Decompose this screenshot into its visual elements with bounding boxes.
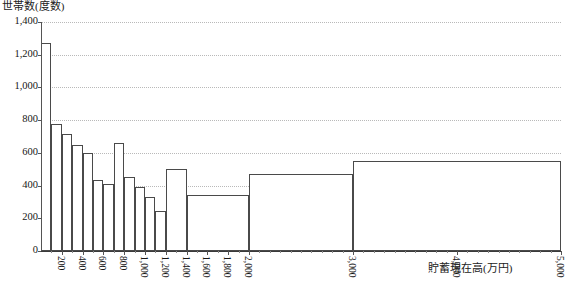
histogram-bar	[72, 145, 82, 251]
x-axis-minor-tick	[93, 251, 94, 253]
x-axis-minor-tick	[311, 251, 312, 253]
x-axis-minor-tick	[530, 251, 531, 253]
y-axis-tick-label: 800	[0, 113, 38, 124]
x-axis-minor-tick	[478, 251, 479, 253]
x-axis-minor-tick	[384, 251, 385, 253]
x-axis-tick-mark	[103, 251, 104, 255]
x-axis-tick-mark	[187, 251, 188, 255]
y-axis-tick-label: 1,000	[0, 80, 38, 91]
histogram-bar	[353, 161, 561, 251]
x-axis-tick-label: 5,000	[555, 256, 565, 277]
histogram-bar	[93, 180, 103, 251]
x-axis-minor-tick	[291, 251, 292, 253]
y-axis-tick-label: 1,400	[0, 15, 38, 26]
x-axis-minor-tick	[114, 251, 115, 253]
bars-group	[41, 22, 561, 251]
x-axis-minor-tick	[135, 251, 136, 253]
x-axis-tick-label: 3,000	[347, 256, 357, 277]
x-axis-minor-tick	[551, 251, 552, 253]
x-axis-tick-mark	[62, 251, 63, 255]
y-axis-tick-label: 1,200	[0, 48, 38, 59]
histogram-bar	[135, 187, 145, 251]
histogram-bar	[62, 134, 72, 251]
histogram-bar	[114, 143, 124, 251]
x-axis-tick-label: 800	[118, 256, 128, 270]
x-axis-minor-tick	[155, 251, 156, 253]
x-axis-minor-tick	[467, 251, 468, 253]
histogram-bar	[103, 184, 113, 251]
histogram-bar	[249, 174, 353, 251]
x-axis-minor-tick	[280, 251, 281, 253]
x-axis-title: 貯蓄現在高(万円)	[428, 259, 512, 275]
histogram-bar	[41, 43, 51, 251]
x-axis-tick-label: 1,800	[222, 256, 232, 277]
x-axis-tick-mark	[83, 251, 84, 255]
x-axis-minor-tick	[540, 251, 541, 253]
x-axis-tick-mark	[207, 251, 208, 255]
x-axis-minor-tick	[301, 251, 302, 253]
histogram-bar	[166, 169, 187, 251]
x-axis-minor-tick	[415, 251, 416, 253]
x-axis-minor-tick	[488, 251, 489, 253]
x-axis-minor-tick	[374, 251, 375, 253]
x-axis-minor-tick	[426, 251, 427, 253]
x-axis-tick-mark	[561, 251, 562, 255]
x-axis-minor-tick	[447, 251, 448, 253]
histogram-bar	[51, 124, 61, 251]
y-axis-tick-label: 0	[0, 244, 38, 255]
x-axis-minor-tick	[72, 251, 73, 253]
y-axis-tick-label: 400	[0, 179, 38, 190]
x-axis-minor-tick	[239, 251, 240, 253]
y-axis-tick-label: 600	[0, 146, 38, 157]
x-axis-tick-mark	[353, 251, 354, 255]
x-axis-minor-tick	[363, 251, 364, 253]
y-axis-tick-label: 200	[0, 211, 38, 222]
histogram-bar	[155, 211, 165, 251]
histogram-bar	[145, 197, 155, 251]
histogram-bar	[83, 153, 93, 251]
x-axis-tick-mark	[249, 251, 250, 255]
x-axis-minor-tick	[197, 251, 198, 253]
y-axis-title: 世帯数(度数)	[2, 0, 64, 13]
x-axis-tick-label: 1,000	[139, 256, 149, 277]
x-axis-minor-tick	[519, 251, 520, 253]
x-axis-minor-tick	[395, 251, 396, 253]
x-axis-tick-mark	[145, 251, 146, 255]
x-axis-tick-label: 600	[97, 256, 107, 270]
x-axis-minor-tick	[176, 251, 177, 253]
x-axis-tick-label: 2,000	[243, 256, 253, 277]
x-axis-tick-label: 1,600	[201, 256, 211, 277]
x-axis-minor-tick	[270, 251, 271, 253]
x-axis-minor-tick	[51, 251, 52, 253]
x-axis-tick-label: 1,200	[160, 256, 170, 277]
x-axis-minor-tick	[343, 251, 344, 253]
x-axis-tick-mark	[457, 251, 458, 255]
y-axis-line	[41, 22, 42, 251]
x-axis-tick-label: 1,400	[181, 256, 191, 277]
x-axis-minor-tick	[436, 251, 437, 253]
x-axis-tick-mark	[166, 251, 167, 255]
x-axis-minor-tick	[509, 251, 510, 253]
x-axis-minor-tick	[322, 251, 323, 253]
x-axis-minor-tick	[332, 251, 333, 253]
x-axis-minor-tick	[499, 251, 500, 253]
x-axis-tick-label: 400	[77, 256, 87, 270]
histogram-bar	[187, 195, 249, 251]
x-axis-minor-tick	[405, 251, 406, 253]
x-axis-tick-mark	[228, 251, 229, 255]
x-axis-tick-mark	[124, 251, 125, 255]
histogram-bar	[124, 177, 134, 251]
x-axis-tick-label: 200	[56, 256, 66, 270]
x-axis-minor-tick	[218, 251, 219, 253]
x-axis-minor-tick	[259, 251, 260, 253]
